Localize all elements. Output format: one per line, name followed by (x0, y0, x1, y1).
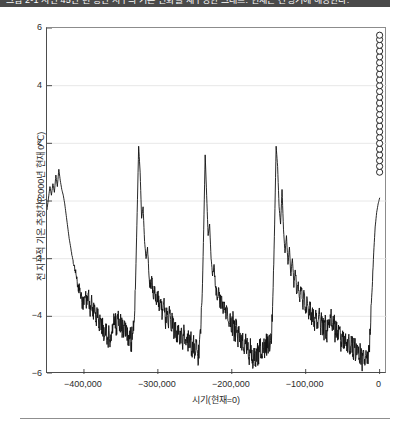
projection-marker (377, 129, 383, 135)
projection-series-markers (377, 32, 383, 175)
projection-marker (377, 88, 383, 94)
y-axis-ticks: −6−4−20246 (12, 27, 42, 373)
projection-marker (377, 54, 383, 60)
projection-marker (377, 100, 383, 106)
chart-figure: 전 지구적 기온 추정치(2000년 현재 0℃) −6−4−20246 −40… (0, 7, 409, 411)
y-tick-label: 0 (16, 195, 42, 205)
projection-marker (377, 123, 383, 129)
projection-marker (377, 169, 383, 175)
x-tick-label: −100,000 (286, 379, 324, 389)
y-tick-label: −2 (16, 253, 42, 263)
projection-marker (377, 48, 383, 54)
chart-canvas (47, 28, 387, 374)
projection-marker (377, 71, 383, 77)
x-axis-title: 시기(현재=0) (46, 393, 386, 406)
y-tick-label: 4 (16, 80, 42, 90)
projection-marker (377, 42, 383, 48)
projection-marker (377, 83, 383, 89)
x-tick-label: 0 (376, 379, 381, 389)
x-tick-label: −400,000 (64, 379, 102, 389)
projection-marker (377, 60, 383, 66)
x-tick-label: −200,000 (212, 379, 250, 389)
projection-marker (377, 106, 383, 112)
projection-marker (377, 140, 383, 146)
y-tick-label: −6 (16, 368, 42, 378)
projection-marker (377, 158, 383, 164)
projection-marker (377, 65, 383, 71)
projection-marker (377, 77, 383, 83)
plot-area (46, 27, 386, 373)
projection-marker (377, 152, 383, 158)
y-tick-label: 6 (16, 22, 42, 32)
projection-marker (377, 163, 383, 169)
x-axis-ticks: −400,000−300,000−200,000−100,0000 (46, 373, 386, 393)
projection-marker (377, 117, 383, 123)
figure-caption-banner: 그림 2-1 지난 45만 년 동안 지구의 기온 변화를 재구성한 그래프. … (0, 0, 390, 7)
footer-divider (20, 418, 390, 419)
projection-marker (377, 32, 383, 38)
figure-caption-text: 그림 2-1 지난 45만 년 동안 지구의 기온 변화를 재구성한 그래프. … (6, 0, 349, 6)
x-tick-label: −300,000 (138, 379, 176, 389)
projection-marker (377, 94, 383, 100)
gridlines (47, 86, 387, 317)
projection-marker (377, 134, 383, 140)
y-tick-label: −4 (16, 310, 42, 320)
y-tick-label: 2 (16, 137, 42, 147)
projection-marker (377, 111, 383, 117)
projection-marker (377, 146, 383, 152)
